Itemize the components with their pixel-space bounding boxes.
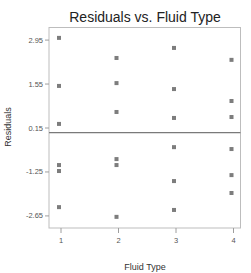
data-points [57,36,234,219]
data-point-marker [230,173,234,177]
data-point-marker [115,163,119,167]
x-tick-label: 1 [59,236,63,245]
residuals-scatter-chart: Residuals vs. Fluid Type 2.951.550.15-1.… [0,0,251,273]
data-point-marker [230,191,234,195]
data-point-marker [115,110,119,114]
y-axis-title: Residuals [3,107,13,147]
x-axis: 1234 [59,228,236,245]
data-point-marker [172,179,176,183]
data-point-marker [230,99,234,103]
data-point-marker [230,58,234,62]
x-tick-label: 4 [231,236,235,245]
data-point-marker [115,157,119,161]
y-tick-label: -2.65 [26,211,43,220]
data-point-marker [172,46,176,50]
plot-frame [49,28,241,229]
x-axis-title: Fluid Type [124,262,165,272]
y-tick-label: 1.55 [28,80,43,89]
chart-title: Residuals vs. Fluid Type [69,9,221,25]
y-axis: 2.951.550.15-1.25-2.65 [26,36,49,221]
data-point-marker [115,81,119,85]
y-tick-label: -1.25 [26,167,43,176]
y-tick-label: 2.95 [28,36,43,45]
data-point-marker [172,87,176,91]
data-point-marker [172,145,176,149]
data-point-marker [57,163,61,167]
data-point-marker [172,208,176,212]
data-point-marker [57,169,61,173]
x-tick-label: 3 [174,236,178,245]
data-point-marker [57,205,61,209]
data-point-marker [172,116,176,120]
data-point-marker [57,36,61,40]
data-point-marker [115,56,119,60]
data-point-marker [230,115,234,119]
x-tick-label: 2 [116,236,120,245]
data-point-marker [230,147,234,151]
y-tick-label: 0.15 [28,124,43,133]
data-point-marker [57,84,61,88]
data-point-marker [115,215,119,219]
data-point-marker [57,122,61,126]
